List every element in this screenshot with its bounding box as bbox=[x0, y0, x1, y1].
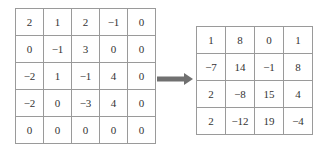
input-matrix-cell: 0 bbox=[128, 36, 156, 63]
output-matrix-cell: 1 bbox=[284, 27, 313, 54]
output-matrix: 1801−714−182−81542−1219−4 bbox=[196, 26, 313, 135]
output-matrix-cell: 0 bbox=[255, 27, 284, 54]
output-matrix-cell: −8 bbox=[226, 81, 255, 108]
input-matrix-row: −20−340 bbox=[16, 90, 156, 117]
input-matrix-cell: 0 bbox=[44, 117, 72, 144]
input-matrix-cell: 3 bbox=[72, 36, 100, 63]
output-matrix-cell: 19 bbox=[255, 108, 284, 135]
input-matrix-cell: 4 bbox=[100, 90, 128, 117]
input-matrix-cell: 0 bbox=[128, 117, 156, 144]
input-matrix-row: 0−1300 bbox=[16, 36, 156, 63]
transform-arrow-icon bbox=[157, 73, 193, 85]
output-matrix-cell: 8 bbox=[284, 54, 313, 81]
input-matrix-cell: 0 bbox=[72, 117, 100, 144]
input-matrix-cell: 1 bbox=[44, 9, 72, 36]
output-matrix-cell: 2 bbox=[197, 108, 226, 135]
input-matrix-cell: 0 bbox=[128, 9, 156, 36]
input-matrix-row: 00000 bbox=[16, 117, 156, 144]
output-matrix-cell: 15 bbox=[255, 81, 284, 108]
input-matrix-cell: 0 bbox=[100, 36, 128, 63]
input-matrix-cell: 2 bbox=[16, 9, 44, 36]
output-matrix-cell: 8 bbox=[226, 27, 255, 54]
output-matrix-row: 1801 bbox=[197, 27, 313, 54]
output-matrix-row: 2−8154 bbox=[197, 81, 313, 108]
input-matrix-cell: −2 bbox=[16, 90, 44, 117]
input-matrix-cell: 2 bbox=[72, 9, 100, 36]
input-matrix-cell: 0 bbox=[128, 90, 156, 117]
output-matrix-cell: 4 bbox=[284, 81, 313, 108]
input-matrix-cell: 0 bbox=[100, 117, 128, 144]
output-matrix-cell: −4 bbox=[284, 108, 313, 135]
input-matrix: 212−100−1300−21−140−20−34000000 bbox=[15, 8, 156, 144]
input-matrix-cell: 0 bbox=[16, 36, 44, 63]
input-matrix-row: 212−10 bbox=[16, 9, 156, 36]
input-matrix-cell: −2 bbox=[16, 63, 44, 90]
input-matrix-cell: 4 bbox=[100, 63, 128, 90]
input-matrix-cell: −1 bbox=[100, 9, 128, 36]
output-matrix-row: −714−18 bbox=[197, 54, 313, 81]
input-matrix-cell: 0 bbox=[128, 63, 156, 90]
input-matrix-cell: −1 bbox=[72, 63, 100, 90]
input-matrix-cell: 0 bbox=[16, 117, 44, 144]
input-matrix-row: −21−140 bbox=[16, 63, 156, 90]
output-matrix-cell: −1 bbox=[255, 54, 284, 81]
output-matrix-cell: −12 bbox=[226, 108, 255, 135]
output-matrix-cell: −7 bbox=[197, 54, 226, 81]
input-matrix-cell: −3 bbox=[72, 90, 100, 117]
input-matrix-cell: −1 bbox=[44, 36, 72, 63]
input-matrix-cell: 0 bbox=[44, 90, 72, 117]
output-matrix-cell: 14 bbox=[226, 54, 255, 81]
output-matrix-row: 2−1219−4 bbox=[197, 108, 313, 135]
output-matrix-cell: 2 bbox=[197, 81, 226, 108]
output-matrix-cell: 1 bbox=[197, 27, 226, 54]
input-matrix-cell: 1 bbox=[44, 63, 72, 90]
